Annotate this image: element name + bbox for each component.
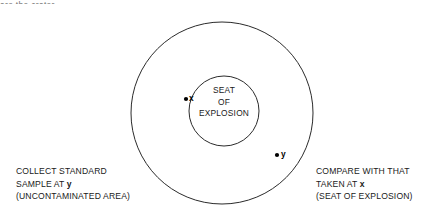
- caption-left-line-1: COLLECT STANDARD: [16, 165, 130, 178]
- center-label-line-3: EXPLOSION: [187, 108, 261, 120]
- caption-right-line-1: COMPARE WITH THAT: [316, 165, 413, 178]
- caption-left-point-ref: y: [67, 179, 72, 189]
- caption-left-line-2-prefix: SAMPLE AT: [16, 179, 67, 189]
- caption-right-line-2: TAKEN AT x: [316, 178, 413, 191]
- point-marker-y: [275, 153, 279, 157]
- caption-left-line-2: SAMPLE AT y: [16, 178, 130, 191]
- center-label-seat-of-explosion: SEAT OF EXPLOSION: [187, 85, 261, 120]
- diagram-page: are the crater SEAT OF EXPLOSION x y COL…: [0, 0, 439, 223]
- caption-right-point-ref: x: [360, 179, 365, 189]
- caption-left-line-3: (UNCONTAMINATED AREA): [16, 190, 130, 203]
- caption-right-line-3: (SEAT OF EXPLOSION): [316, 190, 413, 203]
- point-label-y: y: [281, 150, 286, 159]
- point-label-x: x: [189, 94, 194, 103]
- center-label-line-1: SEAT: [187, 85, 261, 97]
- center-label-line-2: OF: [187, 97, 261, 109]
- caption-right: COMPARE WITH THAT TAKEN AT x (SEAT OF EX…: [316, 165, 413, 203]
- caption-left: COLLECT STANDARD SAMPLE AT y (UNCONTAMIN…: [16, 165, 130, 203]
- caption-right-line-2-prefix: TAKEN AT: [316, 179, 360, 189]
